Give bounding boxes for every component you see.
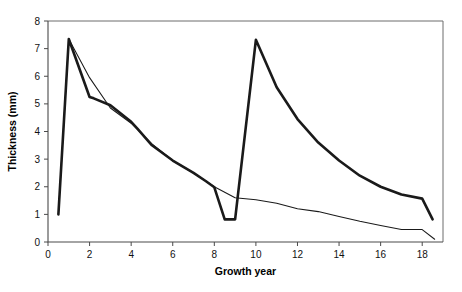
x-tick-label: 16 bbox=[375, 249, 387, 260]
x-tick-label: 18 bbox=[417, 249, 429, 260]
x-axis-ticks: 024681012141618 bbox=[45, 242, 428, 260]
y-tick-label: 7 bbox=[34, 43, 40, 54]
series-line-thin-line bbox=[58, 39, 434, 239]
y-tick-label: 4 bbox=[34, 126, 40, 137]
y-tick-label: 2 bbox=[34, 181, 40, 192]
y-tick-label: 8 bbox=[34, 16, 40, 27]
x-tick-label: 2 bbox=[87, 249, 93, 260]
series-line-thick-line bbox=[58, 39, 432, 219]
x-tick-label: 8 bbox=[212, 249, 218, 260]
x-tick-label: 4 bbox=[128, 249, 134, 260]
y-axis-title: Thickness (mm) bbox=[6, 92, 18, 172]
x-axis-title: Growth year bbox=[215, 265, 276, 277]
y-tick-label: 3 bbox=[34, 154, 40, 165]
x-tick-label: 10 bbox=[250, 249, 262, 260]
x-tick-label: 0 bbox=[45, 249, 51, 260]
y-tick-label: 1 bbox=[34, 209, 40, 220]
y-tick-label: 6 bbox=[34, 71, 40, 82]
chart-container: 024681012141618 012345678 Growth year Th… bbox=[0, 0, 462, 292]
line-chart: 024681012141618 012345678 Growth year Th… bbox=[0, 0, 462, 292]
y-axis-ticks: 012345678 bbox=[34, 16, 48, 248]
data-series-group bbox=[58, 39, 434, 239]
x-tick-label: 12 bbox=[292, 249, 304, 260]
x-tick-label: 6 bbox=[170, 249, 176, 260]
y-tick-label: 5 bbox=[34, 98, 40, 109]
x-tick-label: 14 bbox=[333, 249, 345, 260]
y-tick-label: 0 bbox=[34, 237, 40, 248]
